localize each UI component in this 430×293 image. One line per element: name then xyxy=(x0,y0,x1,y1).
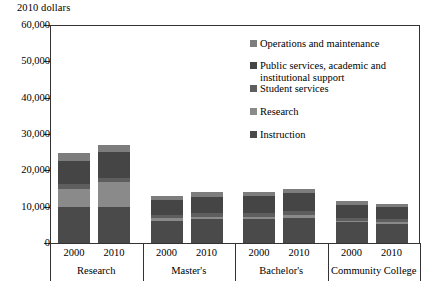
legend-label: Instruction xyxy=(260,129,306,141)
legend-item: Research xyxy=(250,106,425,118)
category-axis-labels: 20002010200020102000201020002010 xyxy=(0,247,430,261)
legend-item: Public services, academic and institutio… xyxy=(250,60,425,83)
y-axis-tick-label: 60,000 xyxy=(6,20,50,30)
year-label: 2000 xyxy=(147,247,187,258)
bar-segment xyxy=(98,152,130,177)
bar-column xyxy=(191,25,223,243)
legend-label: Student services xyxy=(260,83,329,95)
bar-segment xyxy=(243,219,275,243)
legend-swatch-icon xyxy=(250,62,257,69)
year-label: 2000 xyxy=(54,247,94,258)
bar-segment xyxy=(58,189,90,207)
legend-item: Operations and maintenance xyxy=(250,38,425,50)
stacked-bar xyxy=(151,196,183,243)
year-label: 2010 xyxy=(279,247,319,258)
year-label: 2010 xyxy=(372,247,412,258)
bar-segment xyxy=(336,222,368,243)
bar-segment xyxy=(243,196,275,212)
group-label: Research xyxy=(50,265,143,276)
legend-swatch-icon xyxy=(250,131,257,138)
stacked-bar xyxy=(376,204,408,243)
bar-column xyxy=(151,25,183,243)
bar-segment xyxy=(191,219,223,243)
bar-segment xyxy=(191,197,223,214)
bar-column xyxy=(98,25,130,243)
year-label: 2000 xyxy=(332,247,372,258)
legend-label: Research xyxy=(260,106,298,118)
bar-segment xyxy=(283,218,315,243)
bar-segment xyxy=(58,207,90,243)
stacked-bar xyxy=(336,201,368,243)
year-label: 2010 xyxy=(187,247,227,258)
bar-segment xyxy=(98,182,130,207)
legend-label: Public services, academic and institutio… xyxy=(260,60,425,83)
legend-item: Instruction xyxy=(250,129,425,141)
year-label: 2010 xyxy=(94,247,134,258)
group-label: Community College xyxy=(328,265,421,276)
legend-label: Operations and maintenance xyxy=(260,38,380,50)
y-axis-tick-label: 30,000 xyxy=(6,129,50,139)
group-axis-labels: ResearchMaster'sBachelor'sCommunity Coll… xyxy=(0,265,430,281)
stacked-bar xyxy=(98,145,130,243)
legend-swatch-icon xyxy=(250,85,257,92)
stacked-bar xyxy=(243,192,275,243)
bar-column xyxy=(58,25,90,243)
year-label: 2000 xyxy=(239,247,279,258)
bar-segment xyxy=(58,153,90,161)
bar-segment xyxy=(58,161,90,185)
chart-container: 2010 dollars 010,00020,00030,00040,00050… xyxy=(0,0,430,293)
bar-segment xyxy=(151,221,183,243)
y-axis-tick-label: 10,000 xyxy=(6,202,50,212)
y-axis-tick-label: 50,000 xyxy=(6,56,50,66)
stacked-bar xyxy=(58,153,90,243)
legend-swatch-icon xyxy=(250,40,257,47)
legend-item: Student services xyxy=(250,83,425,95)
legend-swatch-icon xyxy=(250,108,257,115)
group-label: Master's xyxy=(143,265,236,276)
bar-segment xyxy=(98,145,130,152)
bar-segment xyxy=(151,200,183,215)
bar-segment xyxy=(283,193,315,211)
bar-segment xyxy=(376,207,408,219)
stacked-bar xyxy=(283,189,315,243)
bar-segment xyxy=(98,207,130,243)
bar-segment xyxy=(376,224,408,243)
y-axis-tick-label: 20,000 xyxy=(6,165,50,175)
group-label: Bachelor's xyxy=(235,265,328,276)
bar-segment xyxy=(336,205,368,218)
y-axis-tick-label: 40,000 xyxy=(6,93,50,103)
stacked-bar xyxy=(191,192,223,243)
